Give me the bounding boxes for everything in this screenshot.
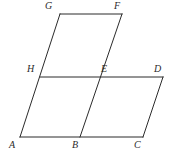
vertex-label-C: C bbox=[134, 140, 141, 150]
vertex-label-G: G bbox=[45, 1, 52, 11]
vertex-label-B: B bbox=[72, 140, 78, 150]
segment-layer bbox=[20, 14, 163, 137]
vertex-label-E: E bbox=[101, 64, 107, 74]
segment-A-G bbox=[20, 14, 60, 137]
vertex-label-H: H bbox=[27, 64, 34, 74]
segment-F-B bbox=[80, 14, 122, 137]
geometry-figure: G F H E D A B C bbox=[0, 0, 173, 157]
geometry-canvas bbox=[0, 0, 173, 157]
vertex-label-D: D bbox=[154, 64, 161, 74]
vertex-label-F: F bbox=[114, 1, 120, 11]
segment-D-C bbox=[143, 77, 163, 137]
vertex-label-A: A bbox=[9, 140, 15, 150]
